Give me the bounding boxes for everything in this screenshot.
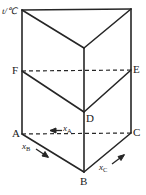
vertex-label-a: A — [12, 128, 20, 139]
x-b-arrowhead-icon — [42, 152, 49, 158]
vertex-label-f: F — [12, 65, 18, 76]
vertex-label-c: C — [133, 127, 140, 138]
x-a-subscript: A — [67, 127, 72, 134]
prism-dashed-edges — [22, 70, 131, 134]
composition-label-x-c: xC — [99, 163, 107, 172]
composition-label-x-a: xA — [63, 124, 72, 133]
top-edge-back — [22, 9, 131, 10]
prism-drawing — [0, 0, 146, 195]
x-a-arrowhead-icon — [50, 128, 56, 133]
mid-edge-F-to-E-dashed — [22, 70, 131, 71]
x-c-arrowhead-icon — [118, 155, 125, 161]
top-edge-front-to-right — [84, 9, 131, 48]
x-c-subscript: C — [103, 166, 107, 173]
vertex-label-e: E — [133, 64, 140, 75]
vertex-label-d: D — [86, 113, 94, 124]
x-b-subscript: B — [26, 145, 30, 152]
top-edge-left-to-front — [22, 10, 84, 48]
base-edge-A-to-B — [22, 134, 84, 172]
prism-solid-edges — [22, 9, 131, 172]
base-edge-B-to-C — [84, 133, 131, 172]
temperature-axis-label: t/℃ — [2, 7, 17, 16]
vertex-label-b: B — [80, 176, 87, 187]
composition-label-x-b: xB — [22, 142, 30, 151]
ternary-prism-figure: t/℃ A B C D E F xA xB xC — [0, 0, 146, 195]
mid-edge-D-to-E — [84, 70, 131, 112]
mid-edge-F-to-D — [22, 71, 84, 112]
base-edge-A-to-C-dashed — [22, 133, 131, 134]
